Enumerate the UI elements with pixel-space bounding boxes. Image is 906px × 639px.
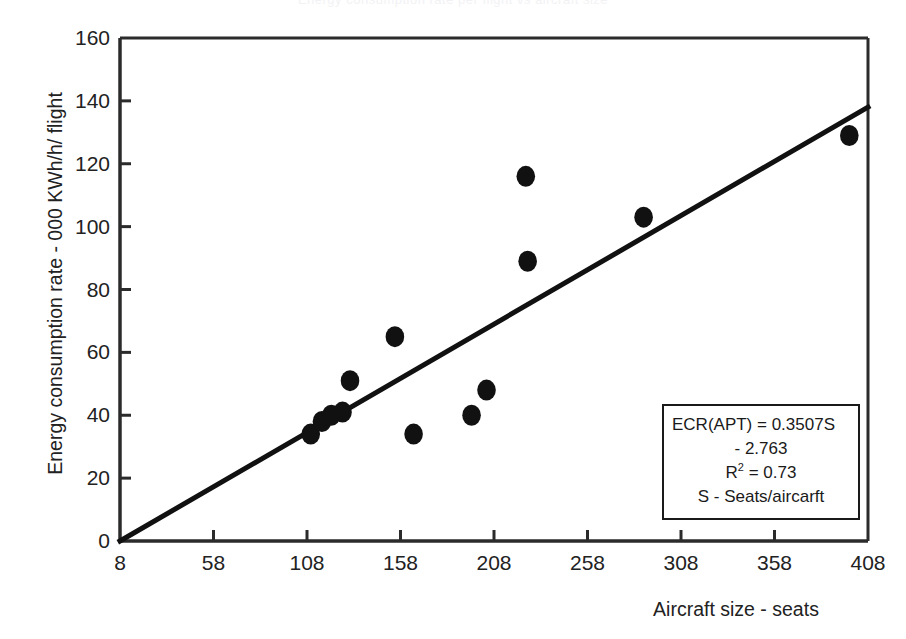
x-tick-label: 358 <box>740 552 810 573</box>
scatter-point <box>386 326 405 347</box>
scatter-point <box>516 166 535 187</box>
x-tick-label: 258 <box>553 552 623 573</box>
x-tick-label: 308 <box>646 552 716 573</box>
scatter-point <box>518 251 537 272</box>
equation-line-intercept: - 2.763 <box>672 437 850 461</box>
scatter-point <box>462 405 481 426</box>
equation-line-r-squared: R2 = 0.73 <box>672 461 850 485</box>
scatter-point <box>634 207 653 228</box>
y-axis-title: Energy consumption rate - 000 KWh/h/ fli… <box>44 24 67 544</box>
x-tick-label: 108 <box>272 552 342 573</box>
scatter-point <box>341 370 360 391</box>
chart-figure: Energy consumption rate per flight vs ai… <box>0 0 906 639</box>
scatter-markers <box>301 125 858 445</box>
scatter-point <box>840 125 859 146</box>
x-tick-label: 8 <box>85 552 155 573</box>
x-tick-label: 158 <box>366 552 436 573</box>
x-axis-tick-labels: 858108158208258308358408 <box>0 552 906 584</box>
x-tick-label: 208 <box>459 552 529 573</box>
scatter-point <box>333 402 352 423</box>
scatter-point <box>477 380 496 401</box>
equation-line-legend: S - Seats/aircarft <box>672 485 850 509</box>
r-squared-value: = 0.73 <box>744 463 796 482</box>
equation-line-slope: ECR(APT) = 0.3507S <box>672 413 850 437</box>
equation-annotation-box: ECR(APT) = 0.3507S - 2.763 R2 = 0.73 S -… <box>662 404 860 520</box>
x-axis-title: Aircraft size - seats <box>566 598 906 621</box>
scatter-point <box>404 424 423 445</box>
x-tick-label: 408 <box>833 552 903 573</box>
plot-canvas <box>0 0 906 639</box>
x-tick-label: 58 <box>179 552 249 573</box>
r-squared-symbol: R <box>726 463 738 482</box>
